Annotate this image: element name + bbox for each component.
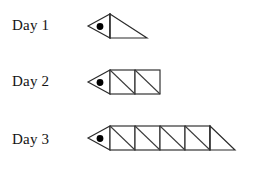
eye-dot-day-2 [97, 79, 104, 86]
figure-day-3 [0, 112, 256, 168]
eye-dot-day-3 [97, 135, 104, 142]
eye-dot-day-1 [97, 23, 104, 30]
figure-stage: Day 1 Day 2 Day 3 [0, 0, 256, 169]
pattern-row-day-3: Day 3 [0, 112, 256, 168]
body-triangle-day-1 [110, 14, 147, 38]
figure-day-1 [0, 0, 256, 56]
pattern-row-day-1: Day 1 [0, 0, 256, 56]
end-triangle-day-3 [210, 126, 235, 150]
pattern-row-day-2: Day 2 [0, 56, 256, 112]
figure-day-2 [0, 56, 256, 112]
